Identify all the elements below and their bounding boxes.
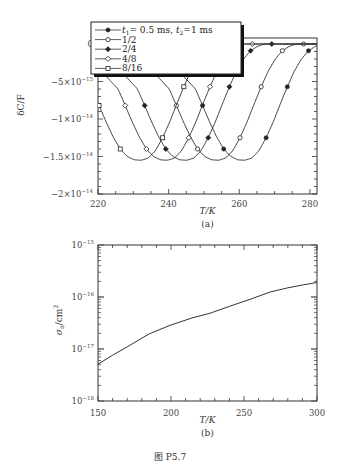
y-tick-label: 10−16 [72,291,95,302]
marker-filled-circle [264,136,268,140]
chart-a-y-axis-title: δC/F [16,94,26,116]
figure: 220240260280 0−5×10−15−1×10−14−1.5×10−14… [0,0,339,474]
marker-filled-diamond [142,103,147,108]
marker-filled-circle [285,85,289,89]
chart-b-series [98,283,317,365]
chart-b-y-tick-labels: 10−1510−1610−1710−18 [72,239,95,406]
legend-label: 4/8 [122,54,137,64]
marker-open-diamond [123,103,128,108]
chart-b-frame [98,245,317,401]
marker-open-square [106,66,110,70]
legend-label: 1/2 [122,35,136,45]
marker-filled-circle [306,49,310,53]
marker-open-circle [259,85,263,89]
x-tick-label: 300 [309,408,325,418]
marker-open-diamond [207,84,212,89]
x-tick-label: 200 [163,408,179,418]
x-tick-label: 250 [236,408,252,418]
marker-open-circle [238,136,242,140]
chart-a-panel-label: (a) [201,219,213,229]
marker-filled-diamond [206,135,211,140]
y-tick-label: 10−18 [72,395,95,406]
x-tick-label: 240 [161,199,177,209]
marker-open-circle [106,38,110,42]
marker-filled-diamond [227,84,232,89]
chart-b-ticks [98,245,317,401]
chart-a-legend: t1= 0.5 ms, t2=1 ms1/22/44/88/16 [91,22,244,77]
y-tick-label: 10−17 [72,343,95,354]
y-tick-label: −1.5×10−14 [43,151,94,162]
marker-filled-circle [106,28,110,32]
chart-b-x-axis-title: T/K [200,415,217,425]
figure-caption: 图 P5.7 [154,452,187,462]
chart-b: 150200250300 10−1510−1610−1710−18 T/K (b… [52,239,325,438]
marker-filled-circle [222,147,226,151]
chart-b-panel-label: (b) [201,428,214,438]
y-tick-label: −1×10−14 [51,113,94,124]
marker-open-circle [196,147,200,151]
marker-open-square [118,147,122,151]
y-tick-label: 10−15 [72,239,95,250]
legend-label: 8/16 [122,63,142,73]
y-tick-label: −2×10−14 [51,188,94,199]
y-tick-label: −5×10−15 [51,76,94,87]
x-tick-label: 260 [231,199,247,209]
chart-a-x-axis-title: T/K [200,206,217,216]
chart-b-y-axis-title: σn/cm2 [52,305,65,336]
legend-label: 2/4 [122,44,137,54]
marker-open-circle [280,49,284,53]
marker-open-square [161,136,165,140]
x-tick-label: 220 [90,199,106,209]
x-tick-label: 150 [90,408,106,418]
series-sigma-n-line [98,283,317,365]
marker-open-diamond [186,135,191,140]
chart-a-y-tick-labels: 0−5×10−15−1×10−14−1.5×10−14−2×10−14 [43,39,94,199]
x-tick-label: 280 [302,199,318,209]
chart-a: 220240260280 0−5×10−15−1×10−14−1.5×10−14… [16,22,328,229]
marker-open-square [182,85,186,89]
